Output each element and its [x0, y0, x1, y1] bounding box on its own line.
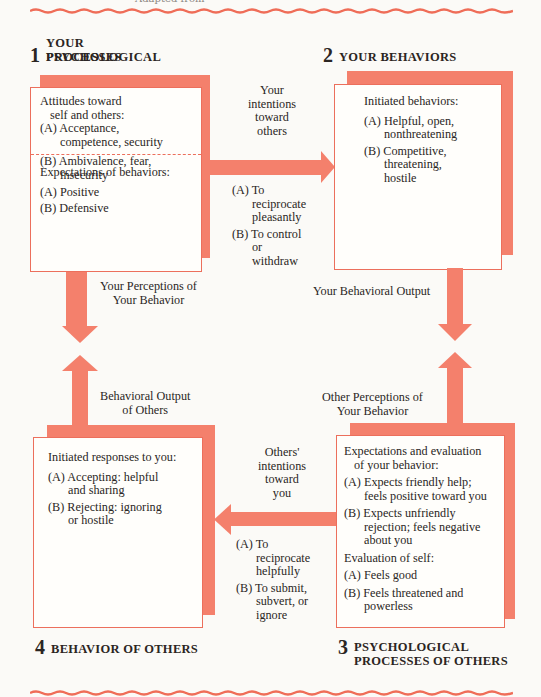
your-intentions-options: (A) To reciprocate pleasantly (B) To con…	[232, 184, 306, 268]
box-your-psychological-processes: Attitudes toward self and others: (A) Ac…	[30, 87, 202, 272]
arrow-down-icon	[438, 324, 472, 341]
list-item: (A) Accepting: helpful	[48, 471, 176, 485]
heading-line: PSYCHOLOGICAL	[354, 640, 469, 654]
list-item-cont: competence, security	[40, 136, 163, 150]
expectations-section: Expectations of behaviors: (A) Positive …	[40, 166, 170, 216]
arrow-up-icon	[62, 355, 98, 371]
quadrant-number: 2	[323, 44, 333, 67]
your-intentions-label: Your intentions toward others	[232, 84, 312, 138]
list-item: (A) Positive	[40, 186, 170, 200]
section-header: of your behavior:	[344, 459, 487, 473]
list-item: (B) Expects unfriendly	[344, 507, 487, 521]
top-wavy-rule	[30, 8, 513, 14]
list-item: (A) Helpful, open,	[364, 115, 458, 129]
quadrant-number: 4	[35, 636, 45, 659]
quadrant-number: 3	[338, 636, 348, 659]
list-item: (B) Defensive	[40, 202, 170, 216]
perceptions-arrow-shaft	[66, 272, 87, 328]
box-your-behaviors: Initiated behaviors: (A) Helpful, open, …	[334, 84, 502, 270]
section-header: Evaluation of self:	[344, 552, 487, 566]
arrow-left-icon	[214, 504, 231, 535]
others-intentions-label: Others' intentions toward you	[242, 446, 322, 500]
heading-line: BEHAVIOR OF OTHERS	[51, 642, 198, 656]
your-behavioral-output-label: Your Behavioral Output	[313, 285, 430, 299]
section-header: self and others:	[40, 109, 163, 123]
section-header: Initiated behaviors:	[364, 95, 458, 109]
arrow-down-icon	[62, 326, 98, 343]
section-header: Expectations and evaluation	[344, 445, 487, 459]
behavioral-output-others-label: Behavioral Output of Others	[100, 390, 190, 417]
others-intentions-arrow-shaft	[230, 512, 338, 526]
list-item: (B) Competitive,	[364, 145, 458, 159]
box-behavior-of-others: Initiated responses to you: (A) Acceptin…	[33, 437, 203, 628]
list-item: (A) Expects friendly help;	[344, 476, 487, 490]
arrow-right-icon	[321, 151, 335, 183]
bottom-wavy-rule	[30, 690, 513, 696]
others-intentions-options: (A) To reciprocate helpfully (B) To subm…	[236, 538, 310, 622]
behavioral-output-arrow-shaft	[447, 268, 463, 326]
box-psychological-processes-of-others: Expectations and evaluation of your beha…	[336, 435, 505, 628]
dashed-divider	[31, 154, 201, 155]
quadrant-number: 1	[30, 44, 40, 67]
list-item: (B) Rejecting: ignoring	[48, 501, 176, 515]
other-perceptions-arrow-shaft	[447, 366, 463, 426]
heading-line: PROCESSES	[46, 50, 122, 64]
heading-line: PROCESSES OF OTHERS	[354, 654, 508, 668]
behavioral-output-others-arrow-shaft	[72, 370, 88, 427]
section-header: Expectations of behaviors:	[40, 166, 170, 180]
list-item: (A) Acceptance,	[40, 122, 163, 136]
list-item: (B) Feels threatened and	[344, 587, 487, 601]
other-perceptions-label: Other Perceptions of Your Behavior	[322, 391, 423, 418]
your-perceptions-label: Your Perceptions of Your Behavior	[100, 280, 197, 307]
source-caption: Adapted from	[135, 0, 205, 4]
heading-line: YOUR BEHAVIORS	[339, 50, 457, 64]
intentions-arrow-shaft	[208, 160, 323, 175]
section-header: Attitudes toward	[40, 95, 163, 109]
list-item: (A) Feels good	[344, 569, 487, 583]
section-header: Initiated responses to you:	[48, 451, 176, 465]
